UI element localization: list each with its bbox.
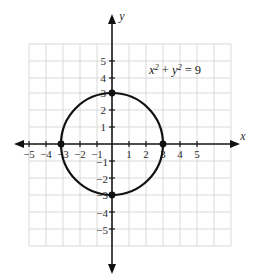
x-tick-label: −5 [23, 148, 35, 160]
x-axis-label: x [239, 129, 246, 143]
intercept-point-top [109, 90, 116, 97]
figure-background [0, 0, 262, 280]
intercept-point-right [160, 141, 167, 148]
x-tick-label: 1 [126, 148, 132, 160]
coordinate-plane-svg: −5 −4 −3 −2 −1 1 2 3 4 5 5 4 3 2 1 −1 −2… [0, 0, 262, 280]
equation-equals: = [185, 63, 192, 77]
x-tick-label: −4 [40, 148, 52, 160]
y-tick-label: 1 [101, 121, 107, 133]
y-tick-label: −4 [96, 207, 108, 219]
x-tick-label: −2 [74, 148, 86, 160]
circle-graph-figure: −5 −4 −3 −2 −1 1 2 3 4 5 5 4 3 2 1 −1 −2… [0, 0, 262, 280]
y-axis-label: y [118, 9, 125, 23]
y-tick-label: −5 [96, 224, 108, 236]
equation-value: 9 [195, 63, 201, 77]
y-tick-label: 4 [101, 72, 107, 84]
x-tick-label: 4 [177, 148, 183, 160]
y-tick-label: −2 [96, 173, 108, 185]
equation-plus: + [162, 63, 169, 77]
intercept-point-left [58, 141, 65, 148]
intercept-point-bottom [109, 192, 116, 199]
x-tick-label: 2 [143, 148, 149, 160]
y-tick-label: −1 [96, 156, 108, 168]
x-tick-label: 5 [194, 148, 200, 160]
y-tick-label: 5 [101, 55, 107, 67]
y-tick-label: 2 [101, 104, 107, 116]
